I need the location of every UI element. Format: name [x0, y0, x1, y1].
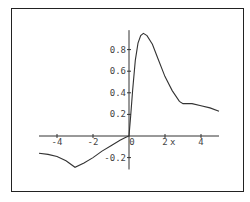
x-tick-label: 0 — [129, 137, 134, 147]
x-tick-label: 4 — [198, 137, 203, 147]
y-tick-label: 0.2 — [110, 109, 126, 119]
axes — [39, 30, 219, 169]
y-tick-label: -0.2 — [104, 153, 126, 163]
x-tick-label: 2 — [162, 137, 167, 147]
line-chart: -4-2240-0.20.20.40.60.8 x — [0, 0, 250, 202]
y-tick-label: 0.4 — [110, 88, 126, 98]
x-tick-label: -4 — [52, 137, 63, 147]
tick-labels: -4-2240-0.20.20.40.60.8 — [52, 45, 204, 163]
x-tick-label: -2 — [88, 137, 99, 147]
y-tick-label: 0.6 — [110, 66, 126, 76]
x-axis-label: x — [170, 137, 176, 147]
y-tick-label: 0.8 — [110, 45, 126, 55]
